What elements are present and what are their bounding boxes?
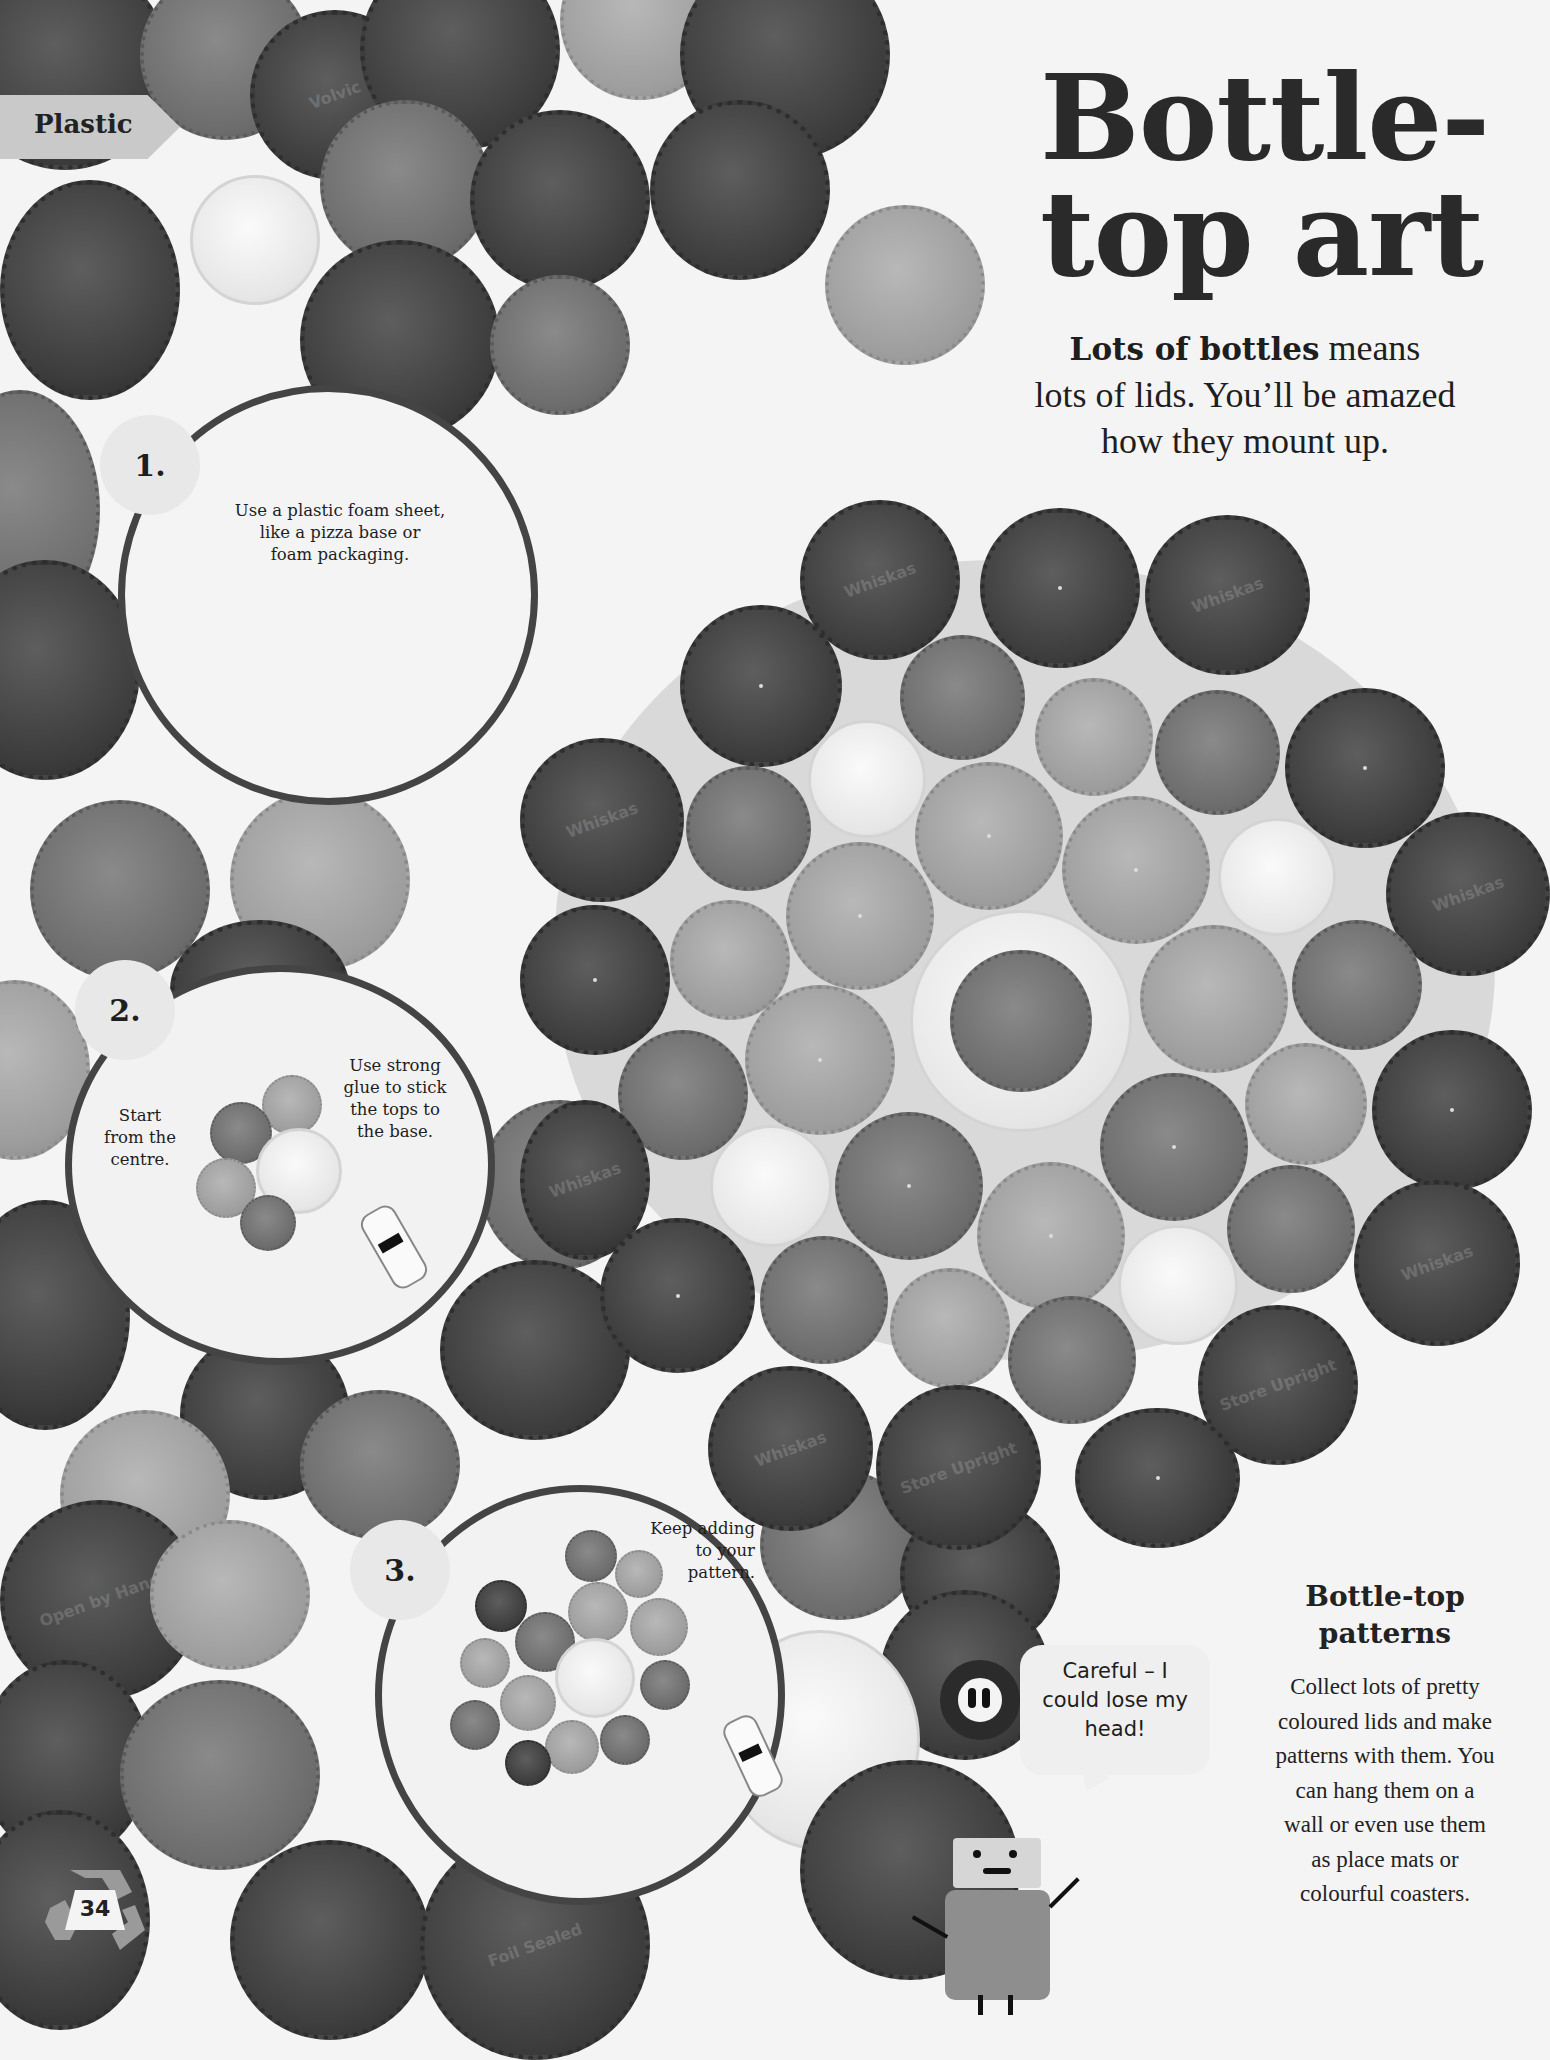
bottle-cap: Whiskas (520, 738, 684, 902)
bottle-cap (150, 1520, 310, 1670)
step-1-text: Use a plastic foam sheet, like a pizza b… (215, 500, 465, 566)
page-number: 34 (40, 1896, 150, 1921)
step-2-right-text: Use strong glue to stick the tops to the… (335, 1055, 455, 1143)
mini-cap (545, 1720, 599, 1774)
robot-arm (1049, 1877, 1080, 1908)
bottle-cap (1245, 1043, 1367, 1165)
step-3-number: 3. (350, 1520, 450, 1620)
robot-leg (978, 1995, 983, 2015)
bottle-cap (835, 1112, 983, 1260)
bottle-cap (190, 175, 320, 305)
bottle-cap: Whiskas (708, 1366, 873, 1531)
bottle-cap (1100, 1073, 1248, 1221)
bottle-cap: Whiskas (1145, 515, 1310, 675)
intro-bold: Lots of bottles (1070, 331, 1320, 367)
bottle-cap (120, 1680, 320, 1870)
robot-arm (912, 1915, 949, 1938)
bottle-cap (900, 635, 1025, 760)
sidebar-body: Collect lots of pretty coloured lids and… (1225, 1670, 1545, 1912)
mini-cap (600, 1715, 650, 1765)
section-tab: Plastic (0, 95, 180, 159)
bottle-cap (890, 1268, 1010, 1388)
step-2-number: 2. (75, 960, 175, 1060)
mini-cap (555, 1638, 635, 1718)
bottle-cap (1075, 1408, 1240, 1548)
section-tab-label: Plastic (34, 109, 133, 139)
page-title: Bottle- top art (1040, 60, 1520, 292)
bottle-cap (680, 605, 842, 767)
intro-paragraph: Lots of bottles means lots of lids. You’… (965, 325, 1525, 464)
bottle-cap (0, 180, 180, 400)
bottle-cap (686, 766, 811, 891)
robot-leg (1008, 1995, 1013, 2015)
bottle-cap (808, 720, 926, 838)
robot-loose-head-cap (940, 1660, 1020, 1740)
bottle-cap (760, 1236, 888, 1364)
mini-cap (460, 1638, 510, 1688)
mini-cap (240, 1195, 296, 1251)
mini-cap (565, 1530, 617, 1582)
title-line-1: Bottle- (1040, 60, 1520, 176)
bottle-cap (650, 100, 830, 280)
bottle-cap (825, 205, 985, 365)
mini-cap (568, 1582, 628, 1642)
bottle-cap (490, 275, 630, 415)
bottle-cap: Whiskas (1354, 1180, 1520, 1346)
intro-line-2: lots of lids. You’ll be amazed (965, 372, 1525, 418)
step-3-text: Keep adding to your pattern. (620, 1518, 755, 1584)
bottle-cap (1118, 1225, 1238, 1345)
mini-cap (505, 1740, 551, 1786)
sidebar-heading: Bottle-top patterns (1230, 1578, 1540, 1652)
bottle-cap (600, 1218, 755, 1373)
bottle-cap (1008, 1296, 1136, 1424)
bottle-cap (1035, 678, 1153, 796)
bottle-cap (977, 1162, 1125, 1310)
step-1-number: 1. (100, 415, 200, 515)
bottle-cap (1218, 818, 1336, 936)
bottle-cap (980, 508, 1140, 668)
bottle-cap (710, 1125, 832, 1247)
speech-bubble: Careful – I could lose my head! (1020, 1645, 1210, 1775)
bottle-cap (1140, 925, 1288, 1073)
bottle-cap (1292, 920, 1422, 1050)
bottle-cap (786, 842, 934, 990)
step-2-left-text: Start from the centre. (90, 1105, 190, 1171)
bottle-cap: Store Upright (876, 1385, 1041, 1550)
mini-cap (630, 1598, 688, 1656)
bottle-cap (1155, 690, 1280, 815)
bottle-cap (745, 985, 895, 1135)
title-line-2: top art (1040, 176, 1520, 292)
bottle-cap (1285, 688, 1445, 848)
bottle-cap (1372, 1030, 1532, 1190)
bottle-cap (520, 905, 670, 1055)
mini-cap (500, 1675, 556, 1731)
bottle-cap (915, 762, 1063, 910)
robot-head (953, 1838, 1041, 1888)
intro-rest: means (1319, 328, 1420, 368)
bottle-cap (300, 1390, 460, 1540)
intro-line-3: how they mount up. (965, 418, 1525, 464)
mini-cap (640, 1660, 690, 1710)
bottle-cap (1227, 1165, 1355, 1293)
mini-cap (450, 1700, 500, 1750)
bottle-cap (470, 110, 650, 290)
bottle-cap (230, 1840, 430, 2040)
robot-body (945, 1890, 1050, 2000)
center-cap (950, 950, 1092, 1092)
page-number-badge: 34 (40, 1860, 150, 1960)
bottle-cap (1062, 796, 1210, 944)
